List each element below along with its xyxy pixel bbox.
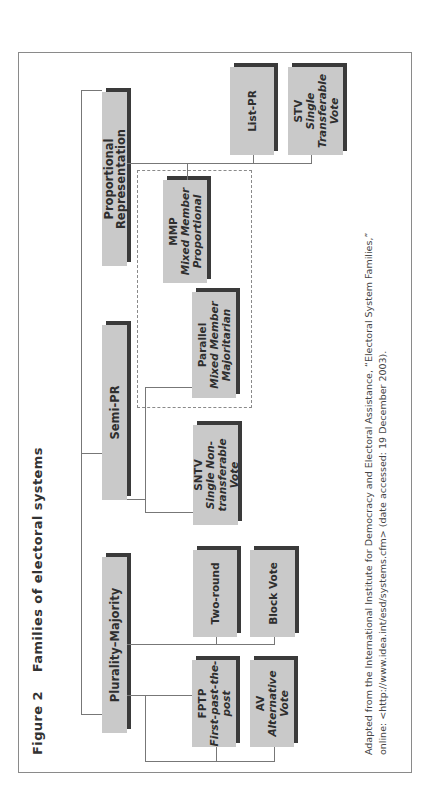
system-mmp: MMP Mixed Member Proportional [163, 180, 207, 283]
system-block-vote: Block Vote [250, 550, 295, 637]
plurality-row2-link [145, 696, 146, 762]
list-pr-label: List-PR [246, 90, 258, 132]
av-name: Alternative Vote [266, 660, 290, 747]
pr-bus [127, 163, 312, 164]
parallel-name-line2: Majoritarian [220, 301, 232, 388]
plurality-branch-row2 [145, 761, 275, 762]
stub-plurality [81, 714, 102, 715]
stub-semi-pr [81, 453, 102, 454]
semi-pr-bus [127, 499, 145, 500]
stv-name-line3: Vote [328, 74, 340, 148]
fptp-name-line1: First-past-the- [208, 661, 220, 747]
mmp-abbr: MMP [167, 217, 179, 246]
rotated-figure-page: Figure 2 Families of electoral systems [0, 0, 433, 811]
fptp-name-line2: post [220, 661, 232, 747]
caption-line-2: online: <http://www.idea.int/esd/systems… [376, 233, 390, 755]
fptp-abbr: FPTP [196, 689, 208, 719]
family-plurality-majority: Plurality–Majority [102, 557, 127, 733]
list-pr-stub [253, 155, 254, 164]
mmp-name-line1: Mixed Member [179, 188, 191, 275]
mmp-name-line2: Proportional [191, 188, 203, 275]
trunk-line [81, 91, 82, 715]
system-parallel: Parallel Mixed Member Majoritarian [192, 292, 236, 398]
parallel-name-line1: Mixed Member [208, 301, 220, 388]
plurality-branch-row1 [127, 644, 275, 645]
system-sntv: SNTV Single Non- transferable Vote [193, 425, 238, 525]
sntv-abbr: SNTV [192, 459, 204, 491]
block-vote-stub [274, 637, 275, 645]
pr-label: Proportional Representation [103, 92, 127, 266]
plurality-upper-branch [146, 695, 147, 696]
fptp-stub [216, 747, 217, 762]
stv-name-line1: Single [304, 74, 316, 148]
block-vote-label: Block Vote [267, 562, 279, 625]
parallel-abbr: Parallel [196, 323, 208, 368]
av-stub [274, 747, 275, 762]
sntv-name-line2: transferable Vote [216, 425, 240, 525]
caption-line-1: Adapted from the International Institute… [362, 233, 376, 755]
two-round-stub [216, 637, 217, 645]
system-two-round: Two-round [193, 550, 237, 637]
family-proportional-representation: Proportional Representation [102, 92, 127, 266]
figure-caption: Adapted from the International Institute… [362, 233, 390, 755]
stv-abbr: STV [292, 100, 304, 123]
sntv-name-line1: Single Non- [204, 425, 216, 525]
semi-pr-label: Semi-PR [109, 385, 121, 439]
stub-pr [81, 90, 102, 91]
system-fptp: FPTP First-past-the- post [192, 660, 236, 747]
stv-name-line2: Transferable [316, 74, 328, 148]
av-abbr: AV [254, 696, 266, 712]
stv-stub [311, 155, 312, 164]
system-list-pr: List-PR [230, 67, 274, 155]
system-av: AV Alternative Vote [250, 660, 294, 747]
system-stv: STV Single Transferable Vote [288, 67, 343, 155]
two-round-label: Two-round [209, 562, 221, 624]
plurality-label: Plurality–Majority [109, 588, 121, 702]
family-semi-pr: Semi-PR [102, 325, 127, 500]
sntv-stub [145, 512, 193, 513]
